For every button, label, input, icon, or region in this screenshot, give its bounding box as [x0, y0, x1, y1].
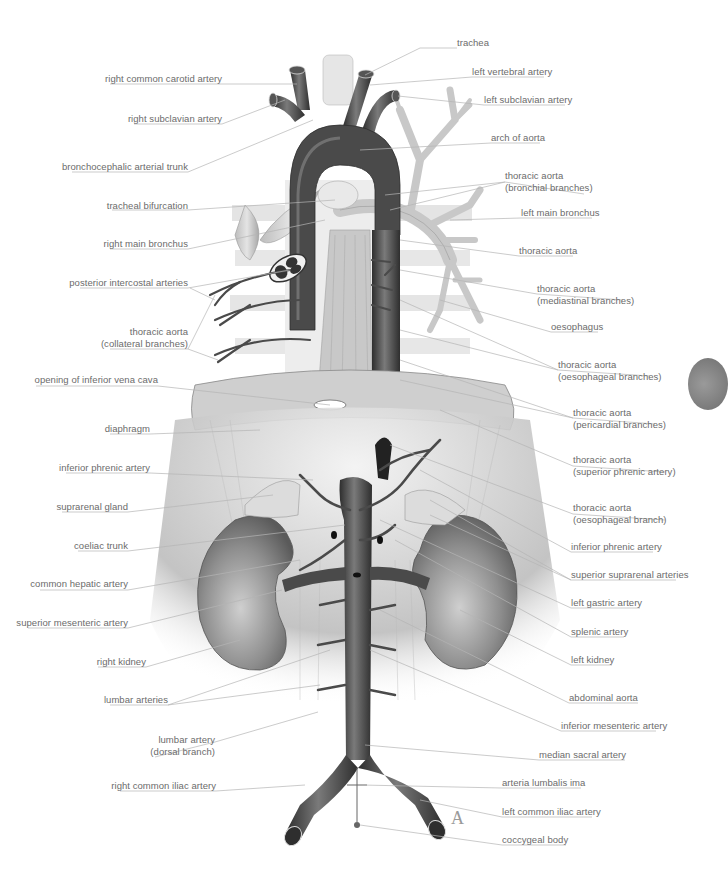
label-line: thoracic aorta	[519, 245, 577, 257]
edge-disc-graphic	[688, 358, 728, 410]
label-line: (oesophageal branches)	[558, 371, 662, 383]
label-median-sacral-artery: median sacral artery	[539, 749, 626, 761]
label-line: trachea	[457, 37, 489, 49]
label-line: common hepatic artery	[30, 578, 128, 590]
label-opening-inferior-vena-cava: opening of inferior vena cava	[35, 374, 158, 386]
label-line: coccygeal body	[502, 834, 568, 846]
label-left-gastric-artery: left gastric artery	[571, 597, 642, 609]
label-superior-suprarenal-arteries: superior suprarenal arteries	[571, 569, 689, 581]
label-line: inferior mesenteric artery	[561, 720, 667, 732]
label-line: inferior phrenic artery	[59, 462, 150, 474]
label-thoracic-aorta-superior-phrenic: thoracic aorta(superior phrenic artery)	[573, 454, 676, 478]
label-line: right common carotid artery	[105, 73, 222, 85]
label-line: posterior intercostal arteries	[69, 277, 188, 289]
label-line: splenic artery	[571, 626, 628, 638]
label-oesophagus: oesophagus	[551, 321, 603, 333]
label-line: tracheal bifurcation	[107, 200, 188, 212]
label-line: left gastric artery	[571, 597, 642, 609]
label-line: thoracic aorta	[505, 170, 593, 182]
label-coccygeal-body: coccygeal body	[502, 834, 568, 846]
label-line: superior mesenteric artery	[16, 617, 128, 629]
label-line: left main bronchus	[521, 207, 600, 219]
label-thoracic-aorta-collateral: thoracic aorta(collateral branches)	[101, 326, 188, 350]
label-line: left subclavian artery	[484, 94, 572, 106]
label-line: oesophagus	[551, 321, 603, 333]
label-posterior-intercostal-arteries: posterior intercostal arteries	[69, 277, 188, 289]
label-line: arch of aorta	[491, 132, 545, 144]
label-line: opening of inferior vena cava	[35, 374, 158, 386]
label-line: (pericardial branches)	[573, 419, 666, 431]
label-superior-mesenteric-artery: superior mesenteric artery	[16, 617, 128, 629]
label-line: left vertebral artery	[472, 66, 552, 78]
label-thoracic-aorta-bronchial: thoracic aorta(bronchial branches)	[505, 170, 593, 194]
label-left-main-bronchus: left main bronchus	[521, 207, 600, 219]
label-tracheal-bifurcation: tracheal bifurcation	[107, 200, 188, 212]
label-right-common-iliac-artery: right common iliac artery	[111, 780, 216, 792]
label-common-hepatic-artery: common hepatic artery	[30, 578, 128, 590]
label-inferior-phrenic-artery-l: inferior phrenic artery	[571, 541, 662, 553]
label-line: right kidney	[97, 656, 146, 668]
label-right-common-carotid-artery: right common carotid artery	[105, 73, 222, 85]
label-right-kidney: right kidney	[97, 656, 146, 668]
label-arteria-lumbalis-ima: arteria lumbalis ima	[502, 777, 585, 789]
label-line: abdominal aorta	[569, 692, 638, 704]
label-inferior-phrenic-artery-r: inferior phrenic artery	[59, 462, 150, 474]
label-line: superior suprarenal arteries	[571, 569, 689, 581]
label-left-vertebral-artery: left vertebral artery	[472, 66, 552, 78]
label-line: inferior phrenic artery	[571, 541, 662, 553]
label-left-subclavian-artery: left subclavian artery	[484, 94, 572, 106]
label-line: left common iliac artery	[502, 806, 601, 818]
label-left-common-iliac-artery: left common iliac artery	[502, 806, 601, 818]
label-inferior-mesenteric-artery: inferior mesenteric artery	[561, 720, 667, 732]
label-line: arteria lumbalis ima	[502, 777, 585, 789]
label-line: diaphragm	[105, 423, 150, 435]
label-line: (collateral branches)	[101, 338, 188, 350]
label-line: right subclavian artery	[128, 113, 222, 125]
label-line: (superior phrenic artery)	[573, 466, 676, 478]
label-left-kidney: left kidney	[571, 654, 614, 666]
label-lumbar-artery-dorsal: lumbar artery(dorsal branch)	[150, 734, 215, 758]
label-line: coeliac trunk	[74, 540, 128, 552]
label-line: (oesophageal branch)	[573, 514, 666, 526]
label-thoracic-aorta-oesophageal: thoracic aorta(oesophageal branches)	[558, 359, 662, 383]
label-diaphragm: diaphragm	[105, 423, 150, 435]
label-abdominal-aorta: abdominal aorta	[569, 692, 638, 704]
label-line: median sacral artery	[539, 749, 626, 761]
label-line: lumbar artery	[150, 734, 215, 746]
label-thoracic-aorta-pericardial: thoracic aorta(pericardial branches)	[573, 407, 666, 431]
label-line: thoracic aorta	[573, 407, 666, 419]
label-bronchocephalic-arterial-trunk: bronchocephalic arterial trunk	[62, 161, 188, 173]
label-line: right main bronchus	[104, 238, 188, 250]
figure-letter: A	[451, 808, 464, 829]
label-suprarenal-gland: suprarenal gland	[56, 501, 128, 513]
label-line: thoracic aorta	[537, 283, 634, 295]
label-right-main-bronchus: right main bronchus	[104, 238, 188, 250]
label-line: suprarenal gland	[56, 501, 128, 513]
label-right-subclavian-artery: right subclavian artery	[128, 113, 222, 125]
label-splenic-artery: splenic artery	[571, 626, 628, 638]
label-thoracic-aorta: thoracic aorta	[519, 245, 577, 257]
label-thoracic-aorta-mediastinal: thoracic aorta(mediastinal branches)	[537, 283, 634, 307]
label-line: (mediastinal branches)	[537, 295, 634, 307]
label-arch-of-aorta: arch of aorta	[491, 132, 545, 144]
label-line: bronchocephalic arterial trunk	[62, 161, 188, 173]
label-line: right common iliac artery	[111, 780, 216, 792]
label-thoracic-aorta-oesophageal-branch: thoracic aorta(oesophageal branch)	[573, 502, 666, 526]
label-line: thoracic aorta	[573, 454, 676, 466]
label-line: (dorsal branch)	[150, 746, 215, 758]
label-line: thoracic aorta	[558, 359, 662, 371]
label-line: left kidney	[571, 654, 614, 666]
label-coeliac-trunk: coeliac trunk	[74, 540, 128, 552]
label-line: thoracic aorta	[573, 502, 666, 514]
label-line: thoracic aorta	[101, 326, 188, 338]
label-line: lumbar arteries	[104, 694, 168, 706]
label-trachea: trachea	[457, 37, 489, 49]
label-line: (bronchial branches)	[505, 182, 593, 194]
label-lumbar-arteries: lumbar arteries	[104, 694, 168, 706]
